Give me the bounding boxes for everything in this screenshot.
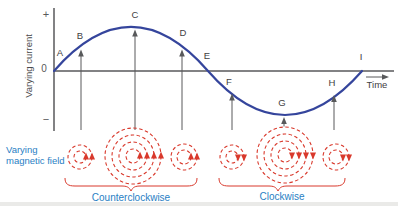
figure-bottom-edge [0, 202, 398, 206]
point-label-f: F [226, 77, 232, 87]
field-ring [329, 150, 343, 164]
ccw-arrow-icon [137, 152, 143, 159]
diagram-canvas [0, 0, 398, 206]
clockwise-brace [219, 178, 345, 191]
ccw-arrow-icon [89, 153, 95, 160]
arrow-up-icon [132, 30, 138, 37]
cw-arrow-icon [235, 155, 241, 162]
point-label-b: B [77, 31, 83, 41]
point-label-g: G [278, 98, 285, 108]
ccw-arrow-icon [83, 153, 89, 160]
cw-arrow-icon [340, 155, 346, 162]
field-ring [171, 144, 197, 170]
cw-arrow-icon [346, 155, 352, 162]
ccw-arrow-icon [158, 152, 164, 159]
current-magnetic-field-figure: + 0 − Varying current Time A B C D E F G… [0, 0, 398, 206]
plus-sign: + [43, 9, 49, 20]
clockwise-label: Clockwise [259, 192, 304, 202]
field-caption-line2: magnetic field [6, 155, 65, 166]
x-axis-label: Time [367, 80, 388, 90]
cw-arrow-icon [296, 153, 302, 160]
indicator-arrows [78, 30, 337, 131]
point-label-d: D [180, 28, 187, 38]
ccw-arrow-icon [144, 152, 150, 159]
field-caption: Varying magnetic field [6, 144, 65, 166]
field-ring [68, 145, 92, 169]
y-axis-label: Varying current [23, 34, 34, 98]
minus-sign: − [43, 114, 49, 125]
field-ring [220, 145, 244, 169]
field-ring [126, 149, 140, 163]
point-label-h: H [329, 78, 336, 88]
cw-arrow-icon [303, 153, 309, 160]
point-label-a: A [57, 48, 63, 58]
field-ring [323, 144, 349, 170]
cw-arrow-icon [289, 153, 295, 160]
field-ring [278, 148, 292, 162]
ccw-arrow-icon [151, 152, 157, 159]
point-label-c: C [132, 10, 139, 20]
cw-arrow-icon [241, 155, 247, 162]
zero-label: 0 [41, 64, 47, 74]
arrow-up-icon [281, 117, 287, 124]
arrow-up-icon [78, 50, 84, 57]
field-ring [177, 150, 191, 164]
ccw-arrow-icon [188, 153, 194, 160]
field-caption-line1: Varying [6, 144, 65, 155]
cw-arrow-icon [310, 153, 316, 160]
arrow-up-icon [179, 50, 185, 57]
point-label-e: E [204, 51, 210, 61]
field-ring [271, 141, 299, 169]
point-label-i: I [360, 52, 363, 62]
counterclockwise-brace [65, 178, 197, 191]
magnetic-field-circles [68, 127, 352, 184]
field-ring [119, 142, 147, 170]
ccw-arrow-icon [194, 153, 200, 160]
